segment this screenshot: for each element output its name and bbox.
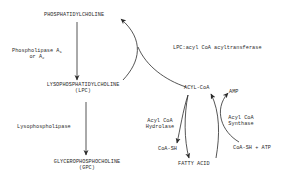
node-acyl-coa: ACYL-CoA bbox=[184, 85, 209, 91]
arrow-fattyacid-to-acylcoa bbox=[211, 94, 219, 158]
lpc-abbrev: (LPC) bbox=[38, 88, 128, 94]
enzyme-acyl-coa-hydrolase: Acyl CoA Hydrolase bbox=[142, 118, 178, 130]
node-coa-sh: CoA-SH bbox=[158, 146, 177, 152]
node-amp: AMP bbox=[229, 89, 239, 95]
node-lysophosphatidylcholine: LYSOPHOSPHATIDYLCHOLINE (LPC) bbox=[38, 82, 128, 94]
arrow-lpc-to-pc bbox=[121, 19, 137, 80]
enzyme-lpc-acyltransferase: LPC:acyl CoA acyltransferase bbox=[173, 45, 262, 51]
hydrolase-line2: Hydrolase bbox=[142, 124, 178, 130]
node-fatty-acid: FATTY ACID bbox=[178, 161, 210, 167]
node-glycerophosphocholine: GLYCEROPHOSPHOCHOLINE (GPC) bbox=[42, 159, 132, 171]
phospholipase-sub2: 2 bbox=[42, 56, 44, 60]
enzyme-lysophospholipase: Lysophospholipase bbox=[17, 124, 71, 130]
phospholipase-line2: or A bbox=[29, 54, 42, 60]
metabolic-pathway-diagram: PHOSPHATIDYLCHOLINE Phospholipase A1 or … bbox=[0, 0, 292, 179]
arrow-acylcoa-join bbox=[138, 47, 186, 87]
synthase-line2: Synthase bbox=[224, 121, 258, 127]
node-phosphatidylcholine: PHOSPHATIDYLCHOLINE bbox=[44, 12, 104, 18]
enzyme-phospholipase-a1-a2: Phospholipase A1 or A2 bbox=[12, 48, 62, 60]
phospholipase-sub1: 1 bbox=[59, 50, 61, 54]
enzyme-acyl-coa-synthase: Acyl CoA Synthase bbox=[224, 115, 258, 127]
gpc-abbrev: (GPC) bbox=[42, 165, 132, 171]
node-coa-sh-atp: CoA-SH + ATP bbox=[233, 145, 271, 151]
